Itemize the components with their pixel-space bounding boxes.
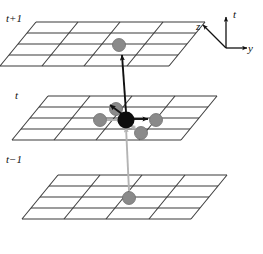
axis-triad xyxy=(203,17,247,48)
node-prev-time-cell xyxy=(123,192,136,205)
arrow-up-to-next-time xyxy=(122,55,126,112)
plane-label-t: t xyxy=(15,89,18,101)
node-next-time-cell xyxy=(113,39,126,52)
figure-canvas: t+1 t t−1 t y z xyxy=(0,0,263,254)
plane-label-t-plus-1: t+1 xyxy=(6,12,22,24)
axis-z-line xyxy=(203,25,226,48)
plane-label-t-minus-1: t−1 xyxy=(6,153,22,165)
arrow-in-from-prev-time xyxy=(126,127,129,191)
lattice-diagram xyxy=(0,0,263,254)
plane-t-plus-1 xyxy=(0,22,205,66)
axis-label-t: t xyxy=(233,8,236,20)
node-neighbor-y-positive xyxy=(150,114,163,127)
node-neighbor-z-negative xyxy=(135,127,148,140)
node-center-cell xyxy=(118,112,135,129)
axis-label-y: y xyxy=(248,42,253,54)
axis-label-z: z xyxy=(196,20,200,32)
node-neighbor-y-negative xyxy=(94,114,107,127)
